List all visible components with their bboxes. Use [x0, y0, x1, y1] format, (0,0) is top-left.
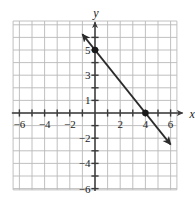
x-tick-label: −2	[64, 118, 76, 130]
y-tick-label: 5	[85, 44, 91, 56]
y-tick-label: 3	[85, 69, 91, 81]
coordinate-plane-figure: −6−4−2246531−2−4−6xy	[0, 0, 195, 203]
x-tick-label: 2	[117, 118, 123, 130]
plotted-point	[142, 110, 149, 117]
x-tick-label: −4	[39, 118, 51, 130]
plotted-point	[92, 47, 99, 54]
y-tick-label: −2	[79, 132, 91, 144]
x-tick-label: 6	[168, 118, 174, 130]
y-tick-label: −6	[79, 183, 91, 195]
x-tick-label: −6	[14, 118, 26, 130]
graph-canvas: −6−4−2246531−2−4−6xy	[0, 0, 195, 203]
x-tick-label: 4	[143, 118, 149, 130]
x-axis-label: x	[189, 107, 195, 121]
y-tick-label: −4	[79, 157, 91, 169]
y-tick-label: 1	[85, 94, 91, 106]
y-axis-label: y	[92, 6, 99, 20]
